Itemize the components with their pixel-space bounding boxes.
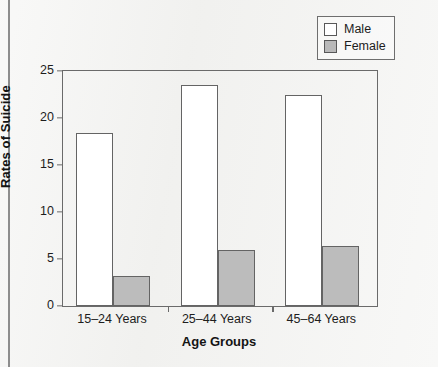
y-axis-tick-mark	[57, 164, 63, 165]
page-background: Male Female Rates of Suicide 15–24 Years…	[0, 0, 438, 367]
y-axis-tick-mark	[57, 305, 63, 306]
legend-label-female: Female	[344, 40, 386, 53]
legend-swatch-male-icon	[324, 23, 337, 36]
y-axis-tick-mark	[57, 117, 63, 118]
x-axis-category-label: 45–64 Years	[287, 312, 357, 326]
x-axis-title: Age Groups	[0, 334, 438, 349]
x-axis-category-label: 15–24 Years	[77, 312, 147, 326]
plot-area	[62, 70, 378, 307]
y-axis-tick-label: 0	[14, 298, 54, 312]
legend-entry-female: Female	[324, 38, 386, 55]
bar-female-2	[322, 246, 359, 306]
bar-male-2	[285, 95, 322, 306]
x-axis-tick-mark	[168, 306, 169, 312]
plot-inner	[63, 71, 377, 306]
x-axis-category-label: 25–44 Years	[182, 312, 252, 326]
legend-label-male: Male	[344, 23, 371, 36]
y-axis-tick-label: 25	[14, 63, 54, 77]
legend-swatch-female-icon	[324, 40, 337, 53]
bar-male-1	[181, 85, 218, 306]
y-axis-tick-mark	[57, 70, 63, 71]
y-axis-tick-label: 10	[14, 204, 54, 218]
x-axis-tick-mark	[272, 306, 273, 312]
legend-entry-male: Male	[324, 21, 386, 38]
bar-female-1	[218, 250, 255, 306]
y-axis-tick-label: 5	[14, 251, 54, 265]
chart-legend: Male Female	[317, 16, 395, 60]
y-axis-title: Rates of Suicide	[0, 85, 13, 188]
y-axis-tick-label: 15	[14, 157, 54, 171]
bar-female-0	[113, 276, 150, 306]
y-axis-tick-mark	[57, 258, 63, 259]
bar-male-0	[76, 133, 113, 306]
y-axis-tick-label: 20	[14, 110, 54, 124]
y-axis-tick-mark	[57, 211, 63, 212]
